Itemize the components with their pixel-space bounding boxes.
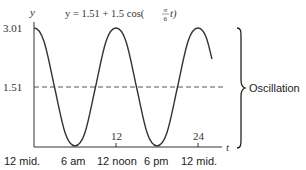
x-tick-label-24: 24: [193, 130, 205, 142]
y-axis-label: y: [29, 6, 35, 18]
time-label-24: 12 mid.: [181, 155, 217, 167]
time-label-18: 6 pm: [144, 155, 168, 167]
x-axis-label: t: [226, 141, 230, 153]
time-label-12: 12 noon: [97, 155, 137, 167]
y-tick-label-max: 3.01: [3, 22, 22, 34]
time-label-6: 6 am: [61, 155, 85, 167]
oscillation-brace: [237, 28, 245, 148]
chart: y t y = 1.51 + 1.5 cos( π 6 t) 3.01 1.51…: [0, 0, 306, 170]
time-label-0: 12 mid.: [4, 155, 40, 167]
title-prefix: y = 1.51 + 1.5 cos(: [65, 8, 145, 20]
chart-title: y = 1.51 + 1.5 cos(: [65, 8, 145, 20]
title-suffix: t): [170, 8, 177, 20]
title-frac-den: 6: [164, 15, 168, 23]
title-frac-num: π: [164, 6, 168, 14]
oscillation-label: Oscillation: [249, 82, 300, 94]
y-tick-label-mid: 1.51: [3, 81, 22, 93]
x-tick-label-12: 12: [111, 130, 122, 142]
